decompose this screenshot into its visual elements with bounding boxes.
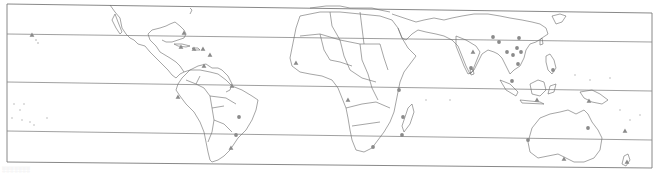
circle-marker-icon: [551, 68, 555, 72]
circle-marker-icon: [469, 66, 473, 70]
circle-marker-icon: [491, 35, 495, 39]
circle-marker-icon: [234, 133, 238, 137]
circle-marker-icon: [515, 46, 519, 50]
circle-marker-icon: [397, 88, 401, 92]
circle-marker-icon: [371, 145, 375, 149]
circle-marker-icon: [237, 115, 241, 119]
circle-marker-icon: [505, 50, 509, 54]
circle-marker-icon: [510, 79, 514, 83]
circle-marker-icon: [586, 126, 590, 130]
scan-caption: ░░░░░░░: [2, 166, 30, 172]
circle-marker-icon: [497, 40, 501, 44]
circle-marker-icon: [517, 36, 521, 40]
circle-marker-icon: [400, 133, 404, 137]
circle-marker-icon: [526, 138, 530, 142]
circle-marker-icon: [519, 50, 523, 54]
circle-marker-icon: [401, 115, 405, 119]
world-map: [0, 0, 659, 174]
circle-marker-icon: [516, 62, 520, 66]
circle-marker-icon: [511, 53, 515, 57]
